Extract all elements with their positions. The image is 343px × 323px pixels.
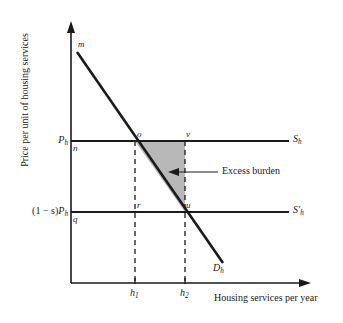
excess-burden-figure: Price per unit of housing services Housi…: [0, 0, 343, 323]
y-axis-label-subsidized-sub: h: [64, 210, 68, 218]
y-axis-label-price: Ph: [16, 135, 68, 145]
demand-curve-line: [77, 52, 223, 263]
supply-curve-label: Sh: [293, 134, 302, 144]
point-label-n: n: [73, 144, 78, 153]
x-axis-arrowhead: [299, 279, 311, 287]
excess-burden-annotation-label: Excess burden: [222, 166, 280, 176]
x-axis-title: Housing services per year: [214, 293, 318, 303]
x-tick-label-h2-sub: 2: [185, 292, 189, 300]
supply-curve-label-sub: h: [298, 138, 302, 146]
x-tick-label-h2: h2: [180, 288, 189, 298]
point-label-q: q: [73, 215, 78, 224]
point-label-v: v: [186, 130, 190, 139]
y-axis-arrowhead: [67, 21, 75, 33]
diagram-canvas: [0, 0, 343, 323]
point-label-m: m: [78, 40, 85, 49]
demand-curve-label-sub: h: [220, 267, 224, 275]
y-axis-label-subsidized-prefix: (1 − s): [32, 205, 58, 216]
y-axis-title: Price per unit of housing services: [20, 30, 30, 170]
x-tick-label-h1: h1: [130, 288, 139, 298]
supply-subsidized-label-sub: h: [300, 209, 304, 217]
demand-curve-label: Dh: [213, 263, 224, 273]
y-axis-label-subsidized-price: (1 − s)Ph: [2, 206, 68, 216]
x-tick-label-h1-sub: 1: [135, 292, 139, 300]
point-label-r: r: [137, 201, 141, 210]
point-label-u: u: [186, 201, 191, 210]
y-axis-label-price-sub: h: [64, 139, 68, 147]
supply-subsidized-curve-label: S′h: [293, 205, 304, 215]
excess-burden-shaded-region: [135, 141, 185, 212]
point-label-o: o: [137, 130, 142, 139]
